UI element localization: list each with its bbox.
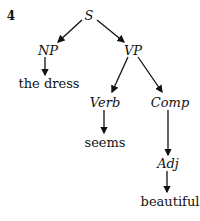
example-number: 4 <box>7 10 15 22</box>
leaf-seems: seems <box>84 136 125 149</box>
node-adj: Adj <box>157 157 179 170</box>
edge-s-vp <box>97 20 124 42</box>
leaf-the-dress: the dress <box>19 77 80 90</box>
node-verb: Verb <box>90 96 120 109</box>
leaf-beautiful: beautiful <box>141 195 200 208</box>
edge-s-np <box>58 20 82 42</box>
node-np: NP <box>38 44 58 57</box>
edge-vp-comp <box>138 57 162 92</box>
edge-vp-verb <box>112 57 128 92</box>
tree-edges <box>0 0 200 221</box>
node-comp: Comp <box>151 96 189 109</box>
node-s: S <box>85 9 94 22</box>
node-vp: VP <box>124 44 142 57</box>
